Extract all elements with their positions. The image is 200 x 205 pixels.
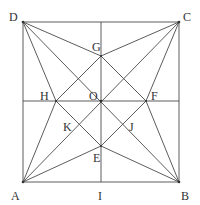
label-d: D bbox=[9, 10, 18, 24]
labels: D C A B I G H O F K J E bbox=[9, 10, 191, 203]
segment-ah bbox=[23, 101, 56, 182]
point-b bbox=[178, 181, 181, 184]
segment-ae bbox=[23, 146, 101, 182]
point-o bbox=[100, 100, 103, 103]
point-e bbox=[100, 145, 102, 147]
label-f: F bbox=[151, 89, 158, 103]
point-a bbox=[22, 181, 25, 184]
label-h: H bbox=[40, 89, 49, 103]
label-e: E bbox=[93, 151, 100, 165]
label-b: B bbox=[181, 189, 189, 203]
point-c bbox=[178, 21, 181, 24]
geometry-diagram: D C A B I G H O F K J E bbox=[0, 0, 200, 205]
label-g: G bbox=[92, 40, 101, 54]
label-i: I bbox=[98, 189, 102, 203]
point-h bbox=[55, 100, 57, 102]
point-g bbox=[100, 55, 102, 57]
point-f bbox=[145, 100, 147, 102]
label-c: C bbox=[183, 10, 191, 24]
point-d bbox=[22, 21, 25, 24]
label-o: O bbox=[89, 89, 98, 103]
label-a: A bbox=[11, 189, 20, 203]
label-k: K bbox=[63, 120, 72, 134]
label-j: J bbox=[129, 120, 134, 134]
segment-fe bbox=[101, 101, 146, 146]
segment-be bbox=[101, 146, 179, 182]
segment-bf bbox=[146, 101, 179, 182]
